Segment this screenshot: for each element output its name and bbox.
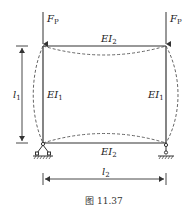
top-beam-label: EI2 bbox=[100, 33, 117, 46]
roller-support-icon bbox=[158, 143, 174, 159]
figure-caption: 图 11.37 bbox=[85, 196, 123, 206]
bottom-beam-deflection bbox=[43, 134, 166, 144]
member-labels: EI2 EI2 EI1 EI1 bbox=[46, 33, 164, 159]
right-column-label: EI1 bbox=[147, 89, 164, 102]
right-load-label: FP bbox=[169, 13, 182, 26]
bottom-beam-label: EI2 bbox=[100, 146, 117, 159]
right-column-deflection bbox=[166, 46, 178, 143]
left-column-label: EI1 bbox=[46, 89, 63, 102]
frame-buckling-diagram: FP FP EI2 EI2 EI1 EI1 bbox=[0, 0, 187, 219]
top-beam-deflection bbox=[43, 46, 166, 55]
left-load-label: FP bbox=[46, 13, 59, 26]
left-column-deflection bbox=[33, 46, 43, 143]
width-dimension-label: l2 bbox=[102, 166, 110, 179]
height-dimension-label: l1 bbox=[13, 89, 21, 102]
pin-support-icon bbox=[33, 142, 53, 159]
